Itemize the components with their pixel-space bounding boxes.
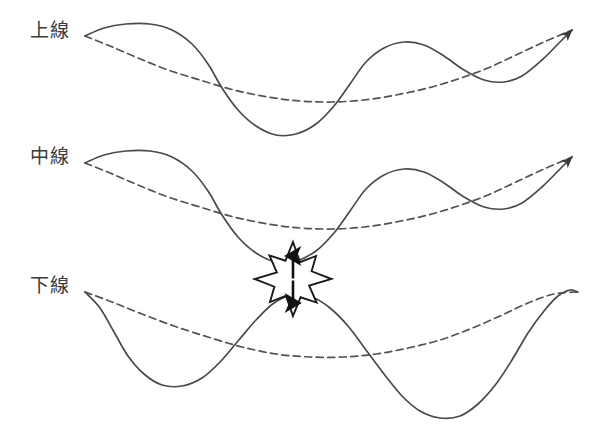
wave-canvas: [0, 0, 600, 437]
starburst-icon: [255, 242, 332, 316]
middle-dashed-curve: [85, 157, 572, 229]
lower-dashed-curve: [85, 292, 578, 357]
wave-group-upper: [85, 23, 572, 135]
upper-solid-curve: [85, 23, 572, 135]
lower-solid-curve: [85, 290, 578, 418]
wave-group-middle: [85, 150, 572, 262]
wave-label-lower: 下線: [30, 276, 70, 295]
collision-burst: [255, 242, 332, 316]
wave-label-middle: 中線: [30, 147, 70, 166]
wave-group-lower: [85, 290, 578, 418]
upper-dashed-curve: [85, 30, 572, 102]
middle-solid-curve: [85, 150, 572, 262]
wave-label-upper: 上線: [30, 21, 70, 40]
wave-diagram-figure: 上線 中線 下線: [0, 0, 600, 437]
